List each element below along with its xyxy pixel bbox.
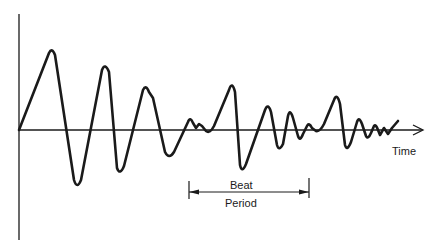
beat-label: Beat [230,179,253,191]
beat-waveform-diagram [0,0,438,252]
time-axis-label: Time [392,145,416,157]
beat-period-right-arrow-icon [299,190,309,195]
waveform [19,50,398,185]
period-label: Period [225,197,257,209]
beat-period-left-arrow-icon [189,190,199,195]
